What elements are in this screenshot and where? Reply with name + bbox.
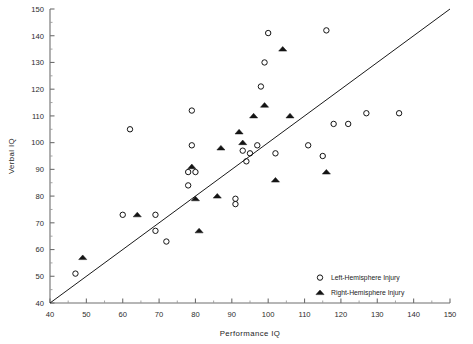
legend-marker-triangle <box>316 290 324 295</box>
y-tick-label: 150 <box>31 5 44 14</box>
scatter-plot-figure: 4050607080901001101201301401504050607080… <box>0 0 473 344</box>
data-point-triangle <box>286 113 294 118</box>
y-tick-label: 60 <box>36 245 44 254</box>
data-point-circle <box>120 212 125 217</box>
data-point-circle <box>127 127 132 132</box>
x-tick-label: 130 <box>371 310 384 319</box>
data-point-circle <box>233 196 238 201</box>
data-point-circle <box>273 151 278 156</box>
data-point-circle <box>233 201 238 206</box>
y-tick-label: 50 <box>36 272 44 281</box>
data-point-circle <box>164 239 169 244</box>
data-point-triangle <box>279 46 287 51</box>
x-axis-title: Performance IQ <box>220 329 281 338</box>
data-point-circle <box>185 183 190 188</box>
plot-canvas: 4050607080901001101201301401504050607080… <box>0 0 473 344</box>
data-point-circle <box>265 30 270 35</box>
legend-label: Right-Hemisphere Injury <box>331 289 405 297</box>
data-point-triangle <box>195 228 203 233</box>
x-tick-label: 60 <box>119 310 127 319</box>
x-tick-label: 90 <box>228 310 236 319</box>
series-right-hemisphere <box>79 46 331 259</box>
data-point-circle <box>258 84 263 89</box>
legend-marker-circle <box>317 275 322 280</box>
data-point-triangle <box>239 140 247 145</box>
y-tick-label: 90 <box>36 165 44 174</box>
data-points-group <box>73 28 402 277</box>
data-point-triangle <box>235 129 243 134</box>
data-point-triangle <box>188 164 196 169</box>
y-tick-label: 110 <box>32 112 44 121</box>
legend-label: Left-Hemisphere Injury <box>331 274 400 282</box>
data-point-circle <box>324 28 329 33</box>
y-tick-label: 120 <box>31 85 44 94</box>
data-point-triangle <box>260 103 268 108</box>
data-point-circle <box>244 159 249 164</box>
y-axis-title: Verbal IQ <box>7 138 16 174</box>
data-point-circle <box>345 121 350 126</box>
data-point-triangle <box>250 113 258 118</box>
data-point-circle <box>247 151 252 156</box>
axis-titles-group: Performance IQVerbal IQ <box>7 138 280 338</box>
data-point-circle <box>240 148 245 153</box>
x-tick-label: 50 <box>82 310 90 319</box>
chart-legend: Left-Hemisphere InjuryRight-Hemisphere I… <box>316 274 405 297</box>
data-point-circle <box>153 228 158 233</box>
x-tick-label: 140 <box>407 310 420 319</box>
x-tick-label: 70 <box>155 310 163 319</box>
x-tick-label: 110 <box>298 310 310 319</box>
x-tick-label: 150 <box>444 310 457 319</box>
x-tick-label: 80 <box>191 310 199 319</box>
data-point-circle <box>262 60 267 65</box>
y-tick-label: 100 <box>31 138 44 147</box>
data-point-circle <box>255 143 260 148</box>
y-tick-label: 130 <box>31 58 44 67</box>
data-point-circle <box>193 169 198 174</box>
data-point-triangle <box>133 212 141 217</box>
y-tick-label: 40 <box>36 299 44 308</box>
series-left-hemisphere <box>73 28 402 277</box>
data-point-triangle <box>217 145 225 150</box>
data-point-circle <box>153 212 158 217</box>
data-point-triangle <box>213 193 221 198</box>
data-point-circle <box>185 169 190 174</box>
x-tick-label: 120 <box>335 310 348 319</box>
data-point-circle <box>364 111 369 116</box>
data-point-triangle <box>271 177 279 182</box>
x-tick-label: 100 <box>262 310 275 319</box>
y-tick-label: 70 <box>36 219 44 228</box>
data-point-triangle <box>79 255 87 260</box>
y-tick-label: 140 <box>31 32 44 41</box>
data-point-circle <box>396 111 401 116</box>
y-tick-label: 80 <box>36 192 44 201</box>
x-tick-label: 40 <box>46 310 54 319</box>
data-point-circle <box>305 143 310 148</box>
data-point-circle <box>189 143 194 148</box>
data-point-circle <box>320 153 325 158</box>
data-point-triangle <box>322 169 330 174</box>
data-point-circle <box>73 271 78 276</box>
data-point-circle <box>331 121 336 126</box>
data-point-circle <box>189 108 194 113</box>
